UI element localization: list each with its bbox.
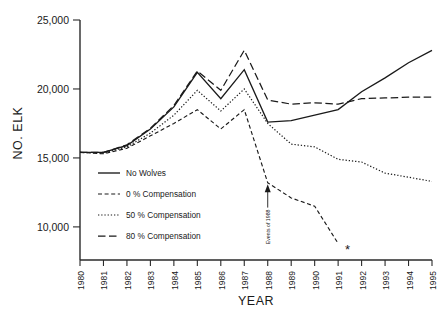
x-tick-label: 1984 <box>170 271 180 290</box>
x-tick-label: 1988 <box>264 271 274 290</box>
y-tick-group: 25,00020,00015,00010,000 <box>37 14 80 233</box>
y-tick-label: 10,000 <box>37 221 69 233</box>
x-tick-label: 1985 <box>193 271 203 290</box>
x-tick-label: 1989 <box>287 271 297 290</box>
y-tick-label: 25,000 <box>37 14 69 26</box>
x-tick-label: 1983 <box>146 271 156 290</box>
chart-svg: 25,00020,00015,00010,000 198019811982198… <box>0 0 442 312</box>
x-tick-label: 1993 <box>381 271 391 290</box>
legend: No Wolves0 % Compensation50 % Compensati… <box>98 168 201 241</box>
x-tick-label: 1980 <box>76 271 86 290</box>
x-tick-group: 1980198119821983198419851986198719881989… <box>76 260 438 290</box>
series-line <box>80 50 432 152</box>
x-axis-title: YEAR <box>238 294 274 308</box>
legend-label: 50 % Compensation <box>126 210 201 220</box>
x-tick-label: 1987 <box>240 271 250 290</box>
series-line <box>80 50 432 152</box>
annotation-label: Events of 1988 <box>265 209 271 244</box>
legend-label: 0 % Compensation <box>126 189 196 199</box>
x-tick-label: 1994 <box>405 271 415 290</box>
y-tick-label: 15,000 <box>37 152 69 164</box>
x-tick-label: 1990 <box>311 271 321 290</box>
y-axis: 25,00020,00015,00010,000 <box>37 14 80 260</box>
legend-label: No Wolves <box>126 168 166 178</box>
x-tick-label: 1981 <box>99 271 109 290</box>
x-tick-label: 1986 <box>217 271 227 290</box>
annotation-arrow-head <box>265 184 271 192</box>
x-tick-label: 1991 <box>334 271 344 290</box>
y-axis-title: NO. ELK <box>11 106 25 159</box>
x-tick-label: 1995 <box>428 271 438 290</box>
y-tick-label: 20,000 <box>37 83 69 95</box>
legend-label: 80 % Compensation <box>126 231 201 241</box>
asterisk-marker: * <box>345 242 350 257</box>
series-line <box>80 110 338 244</box>
elk-population-chart: 25,00020,00015,00010,000 198019811982198… <box>0 0 442 312</box>
annotation-group: Events of 1988* <box>265 184 350 257</box>
x-axis: 1980198119821983198419851986198719881989… <box>76 260 438 290</box>
x-tick-label: 1982 <box>123 271 133 290</box>
x-tick-label: 1992 <box>358 271 368 290</box>
